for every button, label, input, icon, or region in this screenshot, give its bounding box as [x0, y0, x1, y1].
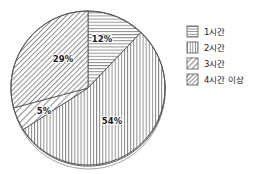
chart-canvas: 12% 54% 5% 29% 1시간 2시간 3시간 4시간 이상	[0, 0, 258, 174]
pie-chart-figure: 12% 54% 5% 29% 1시간 2시간 3시간 4시간 이상	[0, 0, 258, 174]
legend-label-3시간: 3시간	[204, 59, 225, 69]
legend-swatch-diagonal-lines-icon	[187, 58, 198, 69]
legend-item-4시간-이상[interactable]: 4시간 이상	[187, 74, 244, 85]
legend-item-3시간[interactable]: 3시간	[187, 58, 225, 69]
legend-item-2시간[interactable]: 2시간	[187, 42, 225, 53]
pie-value-label-2시간: 54%	[102, 116, 123, 126]
legend-item-1시간[interactable]: 1시간	[187, 26, 225, 37]
pie-value-label-4시간-이상: 29%	[53, 54, 74, 64]
legend-label-4시간-이상: 4시간 이상	[204, 75, 244, 85]
legend-label-1시간: 1시간	[204, 27, 225, 37]
pie-value-label-1시간: 12%	[92, 34, 113, 44]
legend-swatch-horizontal-lines-icon	[187, 26, 198, 37]
legend-label-2시간: 2시간	[204, 43, 225, 53]
pie-value-label-3시간: 5%	[37, 106, 52, 116]
legend-swatch-vertical-lines-icon	[187, 42, 198, 53]
legend-swatch-diagonal-dense-lines-icon	[187, 74, 198, 85]
